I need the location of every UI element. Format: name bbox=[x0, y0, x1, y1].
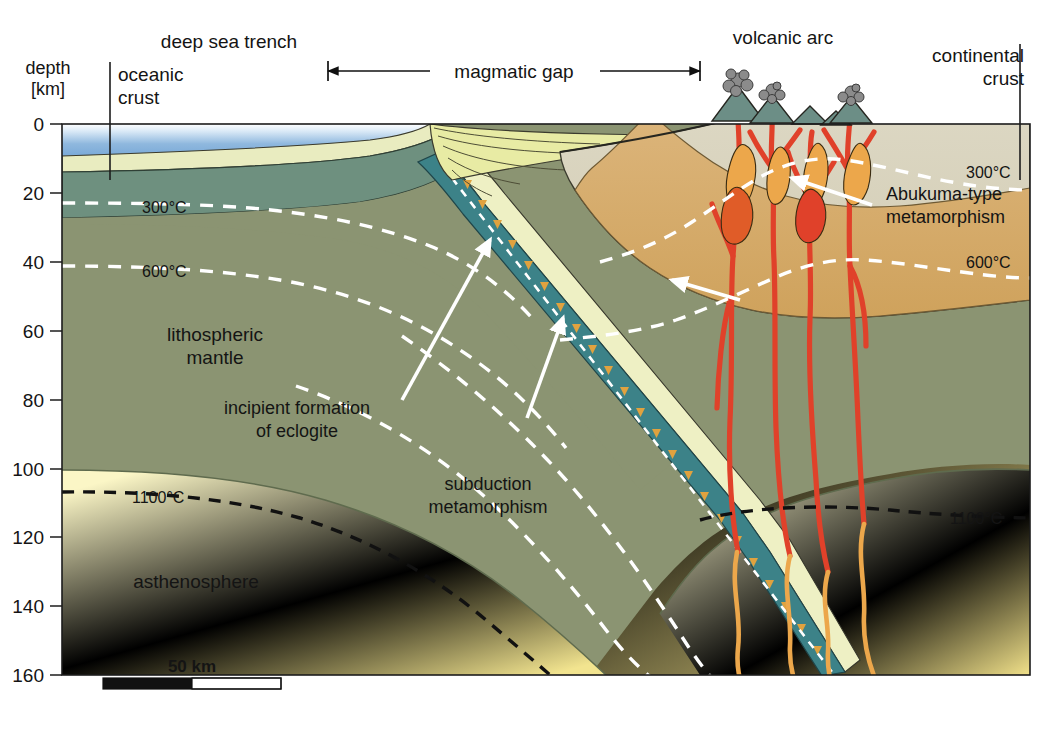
lithospheric-mantle-label-line1: lithospheric bbox=[167, 324, 263, 345]
depth-tick-60: 60 bbox=[23, 321, 44, 342]
depth-tick-80: 80 bbox=[23, 390, 44, 411]
oceanic-crust-label-line1: oceanic bbox=[118, 64, 184, 85]
isotherm-label-1100-right: 1100°C bbox=[950, 510, 1002, 527]
subduction-annotation-line2: metamorphism bbox=[428, 497, 547, 517]
continental-crust-label-line2: crust bbox=[983, 68, 1025, 89]
isotherm-label-600-left: 600°C bbox=[142, 263, 187, 280]
subduction-cross-section: 0 20 40 60 80 100 120 140 160 depth [km]… bbox=[0, 0, 1058, 729]
depth-tick-100: 100 bbox=[12, 459, 44, 480]
abukuma-annotation-line2: metamorphism bbox=[886, 207, 1005, 227]
depth-tick-20: 20 bbox=[23, 183, 44, 204]
depth-tick-140: 140 bbox=[12, 596, 44, 617]
depth-tick-40: 40 bbox=[23, 252, 44, 273]
eclogite-annotation-line2: of eclogite bbox=[256, 421, 338, 441]
asthenosphere-label: asthenosphere bbox=[133, 571, 259, 592]
continental-crust-label-line1: continental bbox=[932, 45, 1024, 66]
lithospheric-mantle-label-line2: mantle bbox=[186, 347, 243, 368]
scale-bar-empty-half bbox=[192, 678, 281, 689]
subduction-annotation-line1: subduction bbox=[444, 474, 531, 494]
depth-tick-160: 160 bbox=[12, 665, 44, 686]
depth-axis-label-line1: depth bbox=[25, 58, 70, 78]
cross-section-body bbox=[62, 99, 1030, 700]
magmatic-gap-label-top: magmatic gap bbox=[454, 61, 573, 82]
scale-bar-label: 50 km bbox=[168, 657, 216, 676]
oceanic-crust-label-line2: crust bbox=[118, 87, 160, 108]
depth-tick-120: 120 bbox=[12, 527, 44, 548]
isotherm-label-600-right: 600°C bbox=[966, 254, 1011, 271]
abukuma-annotation-line1: Abukuma-type bbox=[886, 184, 1002, 204]
figure-canvas: 0 20 40 60 80 100 120 140 160 depth [km]… bbox=[0, 0, 1058, 729]
depth-tick-0: 0 bbox=[33, 114, 44, 135]
depth-axis-label-line2: [km] bbox=[31, 79, 65, 99]
scale-bar bbox=[103, 678, 281, 689]
deep-sea-trench-label: deep sea trench bbox=[161, 31, 297, 52]
eclogite-annotation-line1: incipient formation bbox=[224, 398, 370, 418]
isotherm-label-1100-left: 1100°C bbox=[132, 489, 184, 506]
scale-bar-filled-half bbox=[103, 678, 192, 689]
isotherm-label-300-left: 300°C bbox=[142, 199, 187, 216]
volcanic-arc-label: volcanic arc bbox=[733, 27, 833, 48]
isotherm-label-300-right: 300°C bbox=[966, 164, 1011, 181]
